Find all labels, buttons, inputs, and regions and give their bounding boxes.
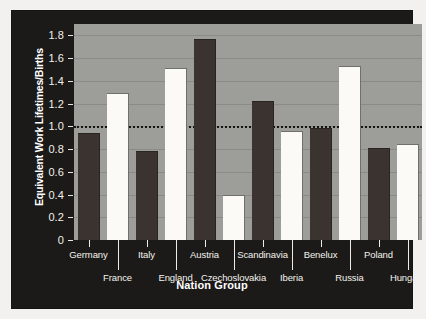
y-axis-tick — [68, 149, 73, 150]
bar-benelux — [310, 128, 331, 240]
y-axis-tick — [68, 195, 73, 196]
bar-czechoslovakia — [223, 195, 244, 240]
bar-england — [165, 68, 186, 240]
x-axis-tick — [176, 240, 177, 270]
y-axis-tick-label: 1.6 — [30, 53, 64, 64]
x-axis-label-scandinavia: Scandinavia — [237, 250, 288, 260]
bar-russia — [339, 66, 360, 240]
y-axis-tick — [68, 35, 73, 36]
bar-scandinavia — [252, 101, 273, 240]
y-axis-tick — [68, 58, 73, 59]
bar-germany — [78, 133, 99, 240]
x-axis-label-poland: Poland — [364, 250, 393, 260]
x-axis-tick — [263, 240, 264, 247]
y-axis-tick-label: 0.6 — [30, 167, 64, 178]
bar-france — [107, 93, 128, 240]
x-axis-label-germany: Germany — [69, 250, 107, 260]
bar-series — [74, 24, 422, 240]
bar-hungary — [397, 144, 418, 240]
y-axis-tick — [68, 240, 73, 241]
x-axis-tick — [321, 240, 322, 247]
y-axis-tick — [68, 81, 73, 82]
y-axis-tick-label: 1.2 — [30, 99, 64, 110]
x-axis-label-benelux: Benelux — [304, 250, 338, 260]
y-axis-tick — [68, 126, 73, 127]
y-axis-tick-label: 0 — [30, 235, 64, 246]
x-axis-title: Nation Group — [12, 279, 412, 291]
chart-figure: Equivalent Work Lifetimes/Births 1.81.61… — [0, 0, 426, 319]
y-axis-tick — [68, 217, 73, 218]
bar-iberia — [281, 131, 302, 240]
x-axis-tick — [147, 240, 148, 247]
y-axis-tick-label: 0.8 — [30, 144, 64, 155]
plot-area — [74, 24, 422, 240]
x-axis-tick — [379, 240, 380, 247]
y-axis-tick — [68, 172, 73, 173]
x-axis-tick — [234, 240, 235, 270]
chart-panel: Equivalent Work Lifetimes/Births 1.81.61… — [12, 11, 412, 308]
x-axis-tick — [205, 240, 206, 247]
y-axis-tick — [68, 104, 73, 105]
bar-poland — [368, 148, 389, 240]
x-axis-tick — [350, 240, 351, 270]
y-axis-tick-label: 1.0 — [30, 121, 64, 132]
x-axis-label-italy: Italy — [138, 250, 155, 260]
bar-austria — [194, 39, 215, 240]
x-axis-tick — [118, 240, 119, 270]
x-axis-label-austria: Austria — [190, 250, 219, 260]
y-axis-tick-label: 0.2 — [30, 212, 64, 223]
x-axis-tick — [292, 240, 293, 270]
y-axis-tick-label: 1.4 — [30, 76, 64, 87]
y-axis-tick-label: 1.8 — [30, 30, 64, 41]
y-axis-tick-label: 0.4 — [30, 190, 64, 201]
x-axis-tick — [89, 240, 90, 247]
x-axis-tick — [408, 240, 409, 270]
bar-italy — [136, 151, 157, 240]
